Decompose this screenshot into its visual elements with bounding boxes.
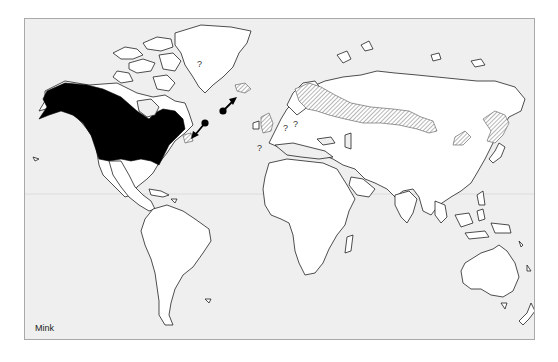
world-map: ? xyxy=(25,19,535,340)
migration-arrows xyxy=(191,97,237,139)
indian-subcontinent xyxy=(395,191,417,223)
british-isles xyxy=(253,113,273,133)
question-mark-iberia: ? xyxy=(257,143,262,153)
caspian-sea xyxy=(345,133,351,149)
south-america xyxy=(141,205,211,325)
madagascar xyxy=(345,235,353,253)
map-caption: Mink xyxy=(35,323,54,333)
arctic-islands xyxy=(337,41,485,67)
question-mark-germany: ? xyxy=(293,119,298,129)
africa xyxy=(263,159,355,275)
greenland: ? xyxy=(175,25,251,93)
question-mark-france: ? xyxy=(283,123,288,133)
introduced-range-iceland xyxy=(235,83,251,93)
map-frame: ? xyxy=(24,18,535,340)
australia xyxy=(461,245,519,297)
tasmania xyxy=(501,303,507,309)
new-zealand xyxy=(519,303,535,325)
falkland-islands xyxy=(205,299,211,303)
question-mark-greenland: ? xyxy=(197,59,202,69)
